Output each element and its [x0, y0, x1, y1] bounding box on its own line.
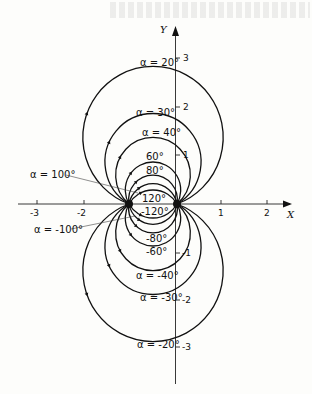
y-axis-arrow-icon [172, 26, 179, 36]
y-tick-label: 3 [183, 53, 189, 63]
axes: X Y -3 -2 1 2 3 2 1 -1 -2 -3 [18, 24, 295, 384]
label-alpha-100: α = 100° [30, 169, 75, 180]
y-tick-label: -2 [182, 295, 191, 305]
circle-family-diagram: X Y -3 -2 1 2 3 2 1 -1 -2 -3 [0, 0, 312, 394]
x-axis-label: X [286, 209, 295, 220]
y-axis-label: Y [160, 24, 168, 35]
label-alpha-neg30: α = -30° [140, 292, 183, 303]
label-alpha-80: 80° [146, 165, 164, 176]
label-alpha-20: α = 20° [140, 57, 179, 68]
label-alpha-neg60: -60° [146, 246, 167, 257]
y-tick-label: 2 [183, 102, 189, 112]
label-alpha-neg40: α = -40° [136, 270, 179, 281]
y-tick-label: -3 [182, 342, 191, 352]
label-alpha-30: α = 30° [136, 107, 175, 118]
label-alpha-neg20: α = -20° [137, 339, 180, 350]
x-tick-label: -2 [77, 208, 86, 218]
y-tick-label: 1 [183, 150, 189, 160]
label-alpha-neg100: α = -100° [34, 224, 83, 235]
label-alpha-40: α = 40° [142, 127, 181, 138]
label-alpha-neg120: -120° [141, 206, 169, 217]
x-tick-label: 2 [264, 208, 270, 218]
label-alpha-neg80: -80° [146, 233, 167, 244]
focal-point-left [125, 200, 133, 208]
x-tick-label: 1 [218, 208, 224, 218]
label-alpha-60: 60° [146, 151, 164, 162]
x-tick-label: -3 [30, 208, 39, 218]
curve-labels: α = 20° α = 30° α = 40° 60° 80° α = 100°… [30, 57, 183, 350]
focal-point-right [173, 200, 181, 208]
label-alpha-120: 120° [142, 193, 166, 204]
x-axis-arrow-icon [283, 201, 292, 208]
